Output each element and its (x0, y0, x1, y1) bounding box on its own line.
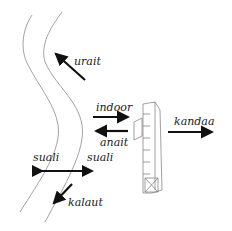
direction-diagram: urait indoor anait kandaa suali suali ka… (0, 0, 232, 231)
label-suali-left: suali (33, 152, 59, 163)
label-kandaa: kandaa (174, 116, 214, 127)
label-suali-right: suali (87, 152, 113, 163)
river-bank-right (44, 12, 83, 222)
house-sketch (134, 102, 162, 193)
label-urait: urait (74, 56, 101, 67)
label-indoor: indoor (96, 102, 132, 113)
label-anait: anait (100, 137, 128, 148)
label-kalaut: kalaut (68, 197, 103, 208)
river-bank-left (20, 15, 58, 212)
